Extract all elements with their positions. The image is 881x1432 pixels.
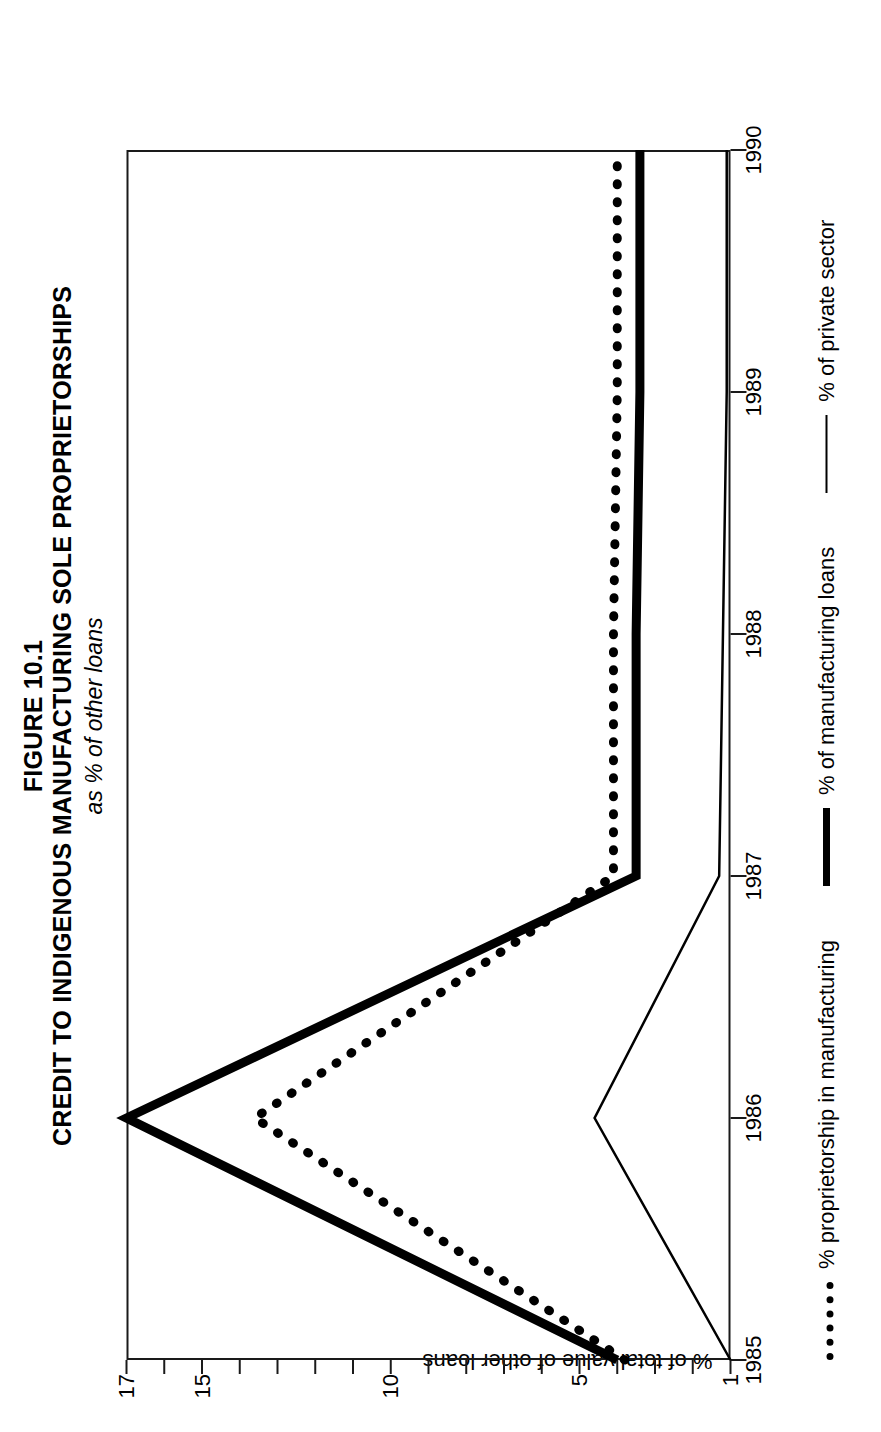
x-axis: 198519861987198819891990: [736, 150, 776, 1360]
figure-number: FIGURE 10.1: [18, 0, 47, 1432]
legend-label: % of manufacturing loans: [813, 547, 839, 795]
x-tick-label: 1988: [740, 610, 766, 659]
plot-area: [126, 150, 730, 1360]
x-tick-label: 1985: [740, 1336, 766, 1385]
x-tick-label: 1990: [740, 126, 766, 175]
legend-label: % of private sector: [813, 220, 839, 402]
series-line: [126, 150, 639, 1360]
x-tick-label: 1987: [740, 852, 766, 901]
legend-item[interactable]: % proprietorship in manufacturing: [813, 940, 839, 1360]
y-tick-label: 5: [566, 1374, 592, 1386]
legend: % proprietorship in manufacturing% of ma…: [806, 70, 846, 1360]
legend-item[interactable]: % of private sector: [813, 220, 839, 493]
y-axis: 15101517 % of total value of other loans: [126, 1366, 730, 1432]
series-lines: [126, 150, 730, 1360]
legend-swatch-thin-line-icon: [819, 415, 833, 493]
x-tick-label: 1989: [740, 368, 766, 417]
legend-item[interactable]: % of manufacturing loans: [813, 547, 839, 886]
figure-subtitle: as % of other loans: [79, 0, 109, 1432]
legend-swatch-dotted-line-icon: [819, 1282, 833, 1360]
y-tick-label: 10: [377, 1374, 403, 1398]
figure: FIGURE 10.1 CREDIT TO INDIGENOUS MANUFAC…: [0, 0, 881, 1432]
series-line: [254, 150, 624, 1360]
y-tick-label: 1: [717, 1374, 743, 1386]
chart-svg: [126, 150, 730, 1360]
legend-swatch-bold-line-icon: [819, 808, 833, 886]
x-tick-label: 1986: [740, 1094, 766, 1143]
rotated-figure-canvas: FIGURE 10.1 CREDIT TO INDIGENOUS MANUFAC…: [0, 0, 881, 1432]
title-block: FIGURE 10.1 CREDIT TO INDIGENOUS MANUFAC…: [18, 0, 109, 1432]
figure-title: CREDIT TO INDIGENOUS MANUFACTURING SOLE …: [47, 0, 76, 1432]
legend-label: % proprietorship in manufacturing: [813, 940, 839, 1269]
y-tick-label: 17: [113, 1374, 139, 1398]
axis-ticks: [126, 150, 746, 1374]
y-tick-label: 15: [189, 1374, 215, 1398]
